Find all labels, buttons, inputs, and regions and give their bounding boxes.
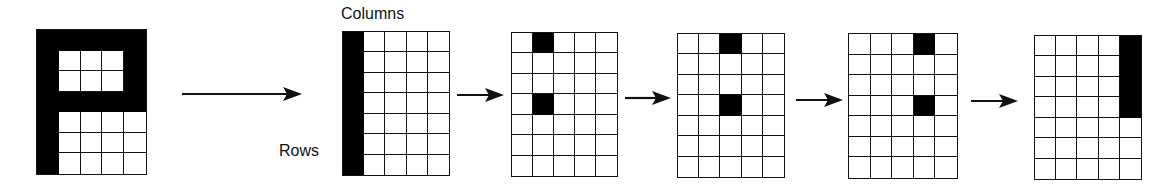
empty-cell [385, 155, 406, 175]
empty-cell [554, 156, 575, 176]
empty-cell [512, 74, 533, 94]
empty-cell [512, 94, 533, 114]
pixel-grid-column-2 [511, 32, 618, 177]
empty-cell [59, 71, 81, 92]
empty-cell [892, 96, 914, 117]
empty-cell [742, 136, 763, 156]
empty-cell [892, 157, 914, 178]
empty-cell [849, 96, 871, 117]
filled-cell [914, 96, 936, 117]
empty-cell [102, 71, 124, 92]
empty-cell [102, 112, 124, 133]
empty-cell [1035, 36, 1056, 56]
empty-cell [596, 94, 617, 114]
empty-cell [742, 54, 763, 74]
empty-cell [554, 33, 575, 53]
empty-cell [871, 157, 893, 178]
empty-cell [763, 95, 784, 115]
empty-cell [699, 54, 720, 74]
empty-cell [763, 54, 784, 74]
empty-cell [1099, 97, 1120, 117]
empty-cell [892, 34, 914, 55]
filled-cell [37, 112, 59, 133]
empty-cell [428, 93, 449, 113]
empty-cell [554, 135, 575, 155]
empty-cell [678, 157, 699, 177]
empty-cell [124, 133, 146, 154]
empty-cell [935, 34, 957, 55]
empty-cell [1099, 56, 1120, 76]
filled-cell [533, 94, 554, 114]
empty-cell [871, 55, 893, 76]
empty-cell [678, 116, 699, 136]
empty-cell [596, 74, 617, 94]
empty-cell [364, 32, 385, 52]
empty-cell [81, 51, 103, 72]
empty-cell [892, 137, 914, 158]
empty-cell [1035, 138, 1056, 158]
empty-cell [554, 94, 575, 114]
right-arrow-icon [457, 85, 504, 105]
empty-cell [914, 75, 936, 96]
empty-cell [720, 136, 741, 156]
empty-cell [699, 95, 720, 115]
empty-cell [935, 55, 957, 76]
empty-cell [59, 112, 81, 133]
empty-cell [512, 33, 533, 53]
empty-cell [763, 34, 784, 54]
empty-cell [124, 112, 146, 133]
empty-cell [892, 75, 914, 96]
filled-cell [37, 153, 59, 174]
empty-cell [59, 133, 81, 154]
empty-cell [742, 116, 763, 136]
empty-cell [678, 54, 699, 74]
filled-cell [343, 32, 364, 52]
empty-cell [596, 53, 617, 73]
filled-cell [533, 33, 554, 53]
empty-cell [1077, 138, 1098, 158]
empty-cell [678, 34, 699, 54]
filled-cell [343, 134, 364, 154]
empty-cell [102, 133, 124, 154]
empty-cell [1035, 118, 1056, 138]
empty-cell [935, 96, 957, 117]
empty-cell [871, 116, 893, 137]
empty-cell [1056, 118, 1077, 138]
empty-cell [428, 114, 449, 134]
filled-cell [59, 92, 81, 113]
filled-cell [102, 30, 124, 51]
empty-cell [849, 75, 871, 96]
filled-cell [343, 52, 364, 72]
empty-cell [81, 71, 103, 92]
empty-cell [1120, 138, 1141, 158]
empty-cell [1077, 159, 1098, 179]
filled-cell [37, 133, 59, 154]
empty-cell [871, 75, 893, 96]
columns-label: Columns [341, 6, 404, 22]
filled-cell [124, 71, 146, 92]
empty-cell [1099, 118, 1120, 138]
empty-cell [1056, 97, 1077, 117]
filled-cell [124, 51, 146, 72]
empty-cell [596, 135, 617, 155]
right-arrow-icon [796, 90, 843, 110]
empty-cell [407, 114, 428, 134]
empty-cell [533, 115, 554, 135]
empty-cell [935, 75, 957, 96]
filled-cell [81, 92, 103, 113]
pixel-grid-column-3 [677, 33, 785, 178]
filled-cell [124, 92, 146, 113]
empty-cell [81, 133, 103, 154]
empty-cell [1035, 77, 1056, 97]
empty-cell [678, 75, 699, 95]
empty-cell [699, 157, 720, 177]
filled-cell [124, 30, 146, 51]
empty-cell [364, 52, 385, 72]
empty-cell [1099, 138, 1120, 158]
empty-cell [407, 134, 428, 154]
filled-cell [59, 30, 81, 51]
empty-cell [81, 112, 103, 133]
empty-cell [575, 94, 596, 114]
empty-cell [596, 33, 617, 53]
empty-cell [1077, 36, 1098, 56]
